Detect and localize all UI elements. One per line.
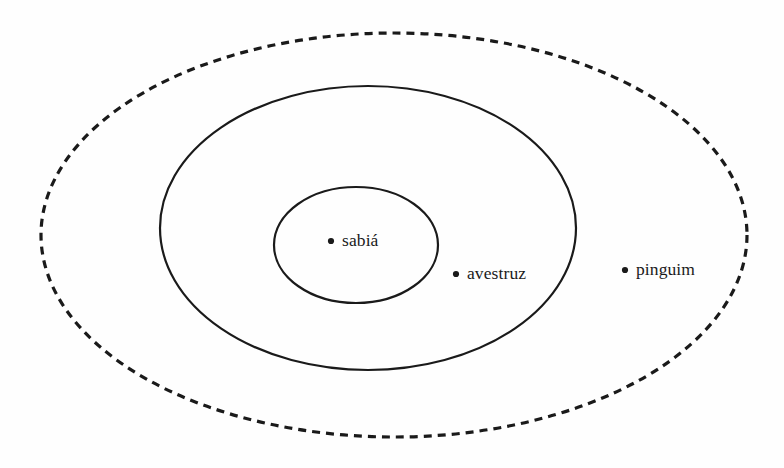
- point-dot-pinguim: [622, 267, 628, 273]
- venn-diagram-svg: [0, 0, 784, 468]
- point-label-avestruz: avestruz: [467, 265, 526, 283]
- point-dot-avestruz: [453, 271, 459, 277]
- middle-solid-ellipse: [160, 86, 576, 370]
- point-label-pinguim: pinguim: [636, 261, 695, 279]
- point-label-sabia: sabiá: [342, 232, 378, 250]
- outer-dashed-ellipse: [41, 33, 747, 437]
- point-dot-sabia: [328, 238, 334, 244]
- set-diagram-canvas: sabiá avestruz pinguim: [0, 0, 784, 468]
